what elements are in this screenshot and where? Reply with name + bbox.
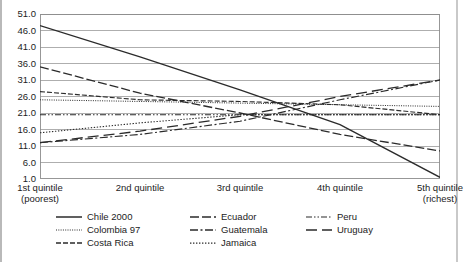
legend-line-swatch-icon xyxy=(190,225,216,235)
plot-svg xyxy=(40,14,440,179)
x-tick-label-line1: 2nd quintile xyxy=(116,182,165,193)
legend-item-label: Peru xyxy=(337,212,357,222)
legend-column: PeruUruguay xyxy=(306,210,373,236)
x-tick-label-line1: 4th quintile xyxy=(317,182,363,193)
legend-item[interactable]: Guatemala xyxy=(190,223,267,236)
legend-item[interactable]: Jamaica xyxy=(190,236,267,249)
legend-item-label: Guatemala xyxy=(221,225,267,235)
legend-line-swatch-icon xyxy=(190,212,216,222)
plot-area xyxy=(40,14,440,179)
legend-column: EcuadorGuatemalaJamaica xyxy=(190,210,267,249)
legend-line-swatch-icon xyxy=(306,212,332,222)
x-tick-label: 1st quintile(poorest) xyxy=(0,182,95,204)
legend-item-label: Uruguay xyxy=(337,225,373,235)
y-tick-label: 51.0 xyxy=(0,9,36,19)
legend-item[interactable]: Ecuador xyxy=(190,210,267,223)
legend-item-label: Jamaica xyxy=(221,238,256,248)
y-tick-label: 6.0 xyxy=(0,158,36,168)
x-tick-label-line1: 3rd quintile xyxy=(217,182,263,193)
y-tick-label: 46.0 xyxy=(0,26,36,36)
x-tick-label-line1: 1st quintile xyxy=(17,182,62,193)
page-edge-right xyxy=(456,0,458,262)
legend-column: Chile 2000Colombia 97Costa Rica xyxy=(56,210,140,249)
x-tick-label: 3rd quintile xyxy=(185,182,295,193)
legend-line-swatch-icon xyxy=(56,212,82,222)
legend-item-label: Colombia 97 xyxy=(87,225,140,235)
x-tick-label-line2: (richest) xyxy=(385,193,468,204)
legend-item-label: Ecuador xyxy=(221,212,256,222)
y-tick-label: 11.0 xyxy=(0,141,36,151)
legend-line-swatch-icon xyxy=(306,225,332,235)
legend-item[interactable]: Costa Rica xyxy=(56,236,140,249)
legend-item-label: Chile 2000 xyxy=(87,212,132,222)
y-tick-label: 41.0 xyxy=(0,42,36,52)
y-tick-label: 16.0 xyxy=(0,125,36,135)
legend-item[interactable]: Peru xyxy=(306,210,373,223)
legend-item[interactable]: Chile 2000 xyxy=(56,210,140,223)
y-tick-label: 21.0 xyxy=(0,108,36,118)
x-tick-label: 5th quintile(richest) xyxy=(385,182,468,204)
series-line-colombia-97 xyxy=(40,100,440,107)
series-line-costa-rica xyxy=(40,92,440,115)
legend-item[interactable]: Uruguay xyxy=(306,223,373,236)
legend-item[interactable]: Colombia 97 xyxy=(56,223,140,236)
chart-legend: Chile 2000Colombia 97Costa RicaEcuadorGu… xyxy=(56,210,416,252)
y-tick-label: 26.0 xyxy=(0,92,36,102)
x-tick-label-line2: (poorest) xyxy=(0,193,95,204)
legend-line-swatch-icon xyxy=(56,225,82,235)
x-axis-tick-labels: 1st quintile(poorest)2nd quintile3rd qui… xyxy=(40,182,440,206)
y-axis-tick-labels: 51.046.041.036.031.026.021.016.011.06.01… xyxy=(0,14,36,179)
legend-item-label: Costa Rica xyxy=(87,238,133,248)
x-tick-label: 4th quintile xyxy=(285,182,395,193)
y-tick-label: 31.0 xyxy=(0,75,36,85)
legend-line-swatch-icon xyxy=(56,238,82,248)
x-tick-label-line1: 5th quintile xyxy=(417,182,463,193)
x-tick-label: 2nd quintile xyxy=(85,182,195,193)
y-tick-label: 36.0 xyxy=(0,59,36,69)
legend-line-swatch-icon xyxy=(190,238,216,248)
series-line-jamaica xyxy=(40,115,440,133)
